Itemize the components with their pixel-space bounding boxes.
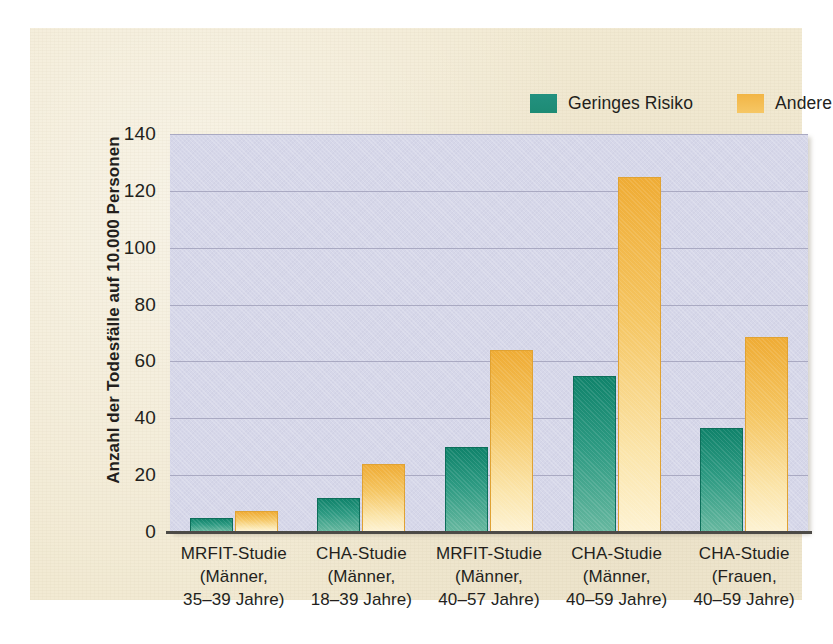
bar-1-geringes-risiko xyxy=(190,518,233,532)
legend-entry-andere: Andere xyxy=(737,93,832,114)
bar-5-geringes-risiko xyxy=(700,428,743,532)
bar-texture xyxy=(574,377,615,531)
x-tick-line: 40–59 Jahre) xyxy=(669,588,819,611)
y-tick-label-140: 140 xyxy=(36,123,156,145)
bar-group-2 xyxy=(298,134,426,532)
y-tick-label-40: 40 xyxy=(36,407,156,429)
legend-label-andere: Andere xyxy=(775,93,832,114)
y-tick-label-20: 20 xyxy=(36,464,156,486)
bar-1-andere xyxy=(235,511,278,532)
legend-swatch-orange-icon xyxy=(737,94,764,113)
bar-group-1 xyxy=(170,134,298,532)
y-tick-label-80: 80 xyxy=(36,294,156,316)
x-tick-line: (Frauen, xyxy=(669,565,819,588)
bar-4-andere xyxy=(618,177,661,532)
y-tick-label-0: 0 xyxy=(36,521,156,543)
bar-texture xyxy=(619,178,660,531)
x-axis-line xyxy=(166,531,812,534)
bar-texture xyxy=(491,351,532,531)
chart-legend: Geringes Risiko Andere xyxy=(530,90,832,116)
bar-texture xyxy=(318,499,359,531)
y-tick-label-60: 60 xyxy=(36,350,156,372)
bar-texture xyxy=(701,429,742,531)
bar-group-5 xyxy=(680,134,808,532)
bar-texture xyxy=(236,512,277,531)
bar-group-4 xyxy=(553,134,681,532)
bar-texture xyxy=(746,338,787,531)
y-tick-label-120: 120 xyxy=(36,180,156,202)
legend-label-geringes-risiko: Geringes Risiko xyxy=(568,93,693,114)
plot-area: 020406080100120140 xyxy=(170,134,808,532)
y-tick-label-100: 100 xyxy=(36,237,156,259)
bar-3-geringes-risiko xyxy=(445,447,488,532)
figure-canvas: Geringes Risiko Andere Anzahl der Todesf… xyxy=(0,0,833,644)
x-tick-label-5: CHA-Studie(Frauen,40–59 Jahre) xyxy=(669,542,819,611)
scanned-page-panel: Geringes Risiko Andere Anzahl der Todesf… xyxy=(30,28,802,600)
bar-group-3 xyxy=(425,134,553,532)
bar-3-andere xyxy=(490,350,533,532)
bar-2-andere xyxy=(362,464,405,532)
legend-swatch-green-icon xyxy=(530,94,557,113)
bar-texture xyxy=(446,448,487,531)
bar-texture xyxy=(191,519,232,531)
bar-texture xyxy=(363,465,404,531)
x-tick-line: CHA-Studie xyxy=(669,542,819,565)
legend-entry-geringes-risiko: Geringes Risiko xyxy=(530,93,693,114)
bar-5-andere xyxy=(745,337,788,532)
bar-2-geringes-risiko xyxy=(317,498,360,532)
bar-4-geringes-risiko xyxy=(573,376,616,532)
